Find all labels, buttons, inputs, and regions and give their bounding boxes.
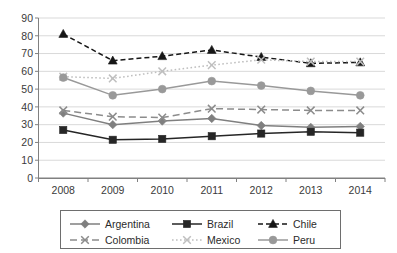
y-axis-tick-label: 60 [21,65,33,77]
x-axis-tick-label: 2014 [349,184,373,196]
y-axis-tick-label: 90 [21,12,33,24]
x-axis-tick-label: 2013 [299,184,323,196]
x-axis-tick-label: 2010 [151,184,175,196]
x-axis-tick-label: 2012 [250,184,274,196]
y-axis-tick-label: 20 [21,136,33,148]
series-marker-brazil [208,133,215,140]
line-chart: 9080706050403020100 20082009201020112012… [0,0,397,253]
chart-legend: ArgentinaBrazilChileColombiaMexicoPeru [61,211,341,249]
series-marker-brazil [357,129,364,136]
series-marker-brazil [60,126,67,133]
x-axis-tick-label: 2008 [52,184,76,196]
y-axis-tick-label: 70 [21,47,33,59]
legend-label: Peru [293,234,315,246]
legend-label: Argentina [105,218,150,230]
chart-canvas: 9080706050403020100 20082009201020112012… [0,0,397,253]
series-marker-peru [59,74,67,82]
series-marker-peru [356,91,364,99]
series-marker-peru [307,87,315,95]
y-axis-tick-label: 10 [21,154,33,166]
series-marker-brazil [109,136,116,143]
y-axis-tick-label: 50 [21,83,33,95]
y-axis-tick-label: 0 [27,172,33,184]
series-marker-brazil [258,130,265,137]
legend-label: Chile [293,218,317,230]
series-marker-brazil [159,135,166,142]
y-axis-tick-label: 30 [21,118,33,130]
x-axis-tick-label: 2011 [200,184,223,196]
series-marker-peru [158,85,166,93]
series-marker-peru [109,91,117,99]
x-axis-tick-label: 2009 [101,184,125,196]
legend-label: Mexico [207,234,240,246]
y-axis-tick-label: 80 [21,30,33,42]
circle-marker-icon [269,236,277,244]
legend-label: Brazil [207,218,233,230]
legend-label: Colombia [105,234,150,246]
series-marker-peru [208,77,216,85]
series-marker-brazil [307,128,314,135]
series-marker-peru [257,82,265,90]
y-axis-tick-label: 40 [21,101,33,113]
square-marker-icon [183,220,190,227]
